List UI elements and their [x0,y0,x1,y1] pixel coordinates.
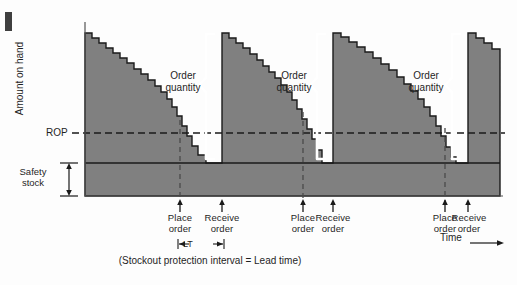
safety-stock-label: Safety stock [10,166,56,188]
place-order-line2-1: order [169,223,192,234]
place-order-line1-1: Place [168,212,192,223]
safety-stock-label-line2: stock [22,177,44,188]
safety-stock-label-line1: Safety [20,166,47,177]
receive-order-label-1: Receive order [196,212,248,234]
safety-arrow-down [66,190,72,196]
receive-order-label-2: Receive order [307,212,359,234]
receive-order-line2-1: order [211,223,234,234]
place-order-arrowhead-2 [300,199,306,205]
safety-arrow-up [66,163,72,169]
figure-caption: (Stockout protection interval = Lead tim… [0,255,420,266]
place-order-arrowhead-1 [177,199,183,205]
inventory-on-hand-area [85,33,500,196]
order-quantity-annotation-1: Order quantity [157,70,209,94]
receive-order-line1-2: Receive [315,212,350,223]
order-quantity-line1-1: Order [170,70,196,81]
lead-time-label: LT [183,239,193,249]
order-quantity-annotation-3: Order quantity [400,70,452,94]
order-quantity-line1-2: Order [281,70,307,81]
order-quantity-line2-3: quantity [408,82,443,93]
receive-order-line1-3: Receive [451,212,486,223]
order-quantity-annotation-2: Order quantity [268,70,320,94]
place-order-arrowhead-3 [442,199,448,205]
lead-time-arrow-right [217,241,223,246]
receive-order-arrowhead-3 [465,199,471,205]
receive-order-arrowhead-2 [330,199,336,205]
reorder-point-label: ROP [46,127,68,138]
order-quantity-line2-2: quantity [276,82,311,93]
receive-order-line2-2: order [322,223,345,234]
order-quantity-brace-3 [445,34,460,159]
time-axis-arrow [470,240,504,246]
x-axis-label: Time [440,232,462,243]
receive-order-label-3: Receive order [443,212,495,234]
y-axis-label: Amount on hand [14,19,25,139]
receive-order-line1-1: Receive [204,212,239,223]
order-quantity-brace-1 [199,34,214,159]
order-quantity-line1-3: Order [413,70,439,81]
receive-order-arrowhead-1 [219,199,225,205]
order-quantity-line2-1: quantity [165,82,200,93]
